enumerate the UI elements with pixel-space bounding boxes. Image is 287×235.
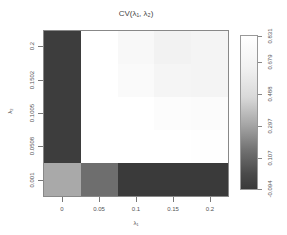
x-tick-label: 0.2 [195,206,225,212]
color-legend-bar [240,35,258,190]
y-tick [38,113,43,114]
heatmap-cell [44,97,81,130]
heatmap-cell [191,163,228,196]
legend-label: 0.107 [267,143,273,173]
heatmap-cell [118,97,155,130]
heatmap-cell [81,64,118,97]
x-tick-label: 0.05 [84,206,114,212]
x-tick [210,197,211,202]
heatmap-cell [118,163,155,196]
heatmap-cell [44,130,81,163]
legend-tick [258,158,262,159]
legend-label: 0.488 [267,79,273,109]
heatmap-cell [44,31,81,64]
x-tick [99,197,100,202]
heatmap-cell [81,163,118,196]
heatmap-cell [118,130,155,163]
legend-label: 0.831 [267,21,273,51]
heatmap-cell [81,97,118,130]
heatmap-cell [154,97,191,130]
heatmap-cell [154,64,191,97]
y-axis-title: λ₂ [7,101,13,121]
heatmap-cell [191,97,228,130]
legend-label: 0.297 [267,111,273,141]
heatmap-cell [44,64,81,97]
legend-tick [258,36,262,37]
heatmap-cell [44,163,81,196]
legend-label: -0.094 [267,174,273,204]
x-tick [62,197,63,202]
x-tick-label: 0.1 [121,206,151,212]
legend-tick [258,94,262,95]
chart-title: CV(λ₁, λ₂) [43,9,229,18]
heatmap-cell [191,31,228,64]
heatmap-cell [191,64,228,97]
heatmap-cell [154,31,191,64]
legend-label: 0.679 [267,47,273,77]
heatmap-cell [154,163,191,196]
heatmap-cell [191,130,228,163]
y-tick [38,46,43,47]
legend-tick [258,126,262,127]
y-tick [38,146,43,147]
heatmap-cell [118,31,155,64]
y-tick [38,180,43,181]
heatmap-cell [81,130,118,163]
x-axis-title: λ₁ [43,220,229,226]
heatmap-cell [118,64,155,97]
heatmap-cell [81,31,118,64]
legend-tick [258,62,262,63]
y-tick [38,80,43,81]
heatmap-plot-area [43,30,229,197]
x-tick-label: 0 [47,206,77,212]
x-tick-label: 0.15 [158,206,188,212]
heatmap-cell [154,130,191,163]
x-tick [173,197,174,202]
legend-tick [258,189,262,190]
y-tick-label: 0.001 [29,160,35,200]
x-tick [136,197,137,202]
